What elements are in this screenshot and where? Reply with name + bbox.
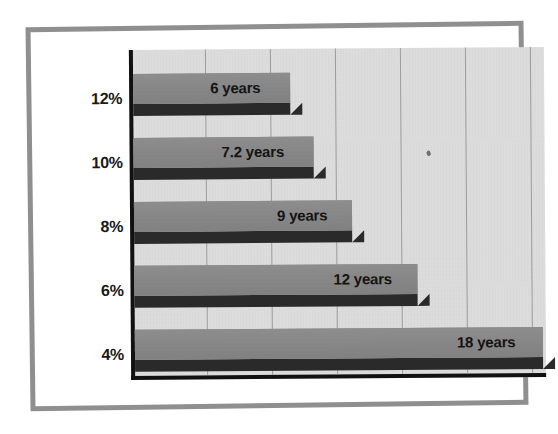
y-tick-label: 12% — [91, 90, 122, 108]
y-tick-label: 6% — [101, 282, 124, 300]
bar-row: 6 years — [133, 71, 548, 116]
bar-chart: 12% 10% 8% 6% 4% — [66, 47, 528, 395]
bar-value-label: 6 years — [210, 73, 261, 103]
y-tick-label: 8% — [101, 218, 124, 236]
bar-shadow — [134, 230, 352, 244]
bar-shadow-cap — [290, 103, 302, 115]
bar-row: 7.2 years — [133, 135, 548, 180]
bar-shadow-cap — [352, 230, 364, 242]
bar-row: 12 years — [134, 263, 549, 308]
chart-outer-frame: 12% 10% 8% 6% 4% — [26, 21, 529, 411]
bar-row: 18 years — [135, 327, 550, 372]
bar-shadow — [133, 103, 290, 116]
bar-value-label: 12 years — [333, 264, 392, 294]
bar-shadow — [135, 294, 418, 308]
y-tick-label: 10% — [91, 154, 122, 172]
bar-value-label: 9 years — [277, 201, 328, 231]
bar-row: 9 years — [134, 199, 549, 244]
y-axis: 12% 10% 8% 6% 4% — [66, 50, 130, 380]
plot-area: 6 years 7.2 years 9 years — [129, 47, 546, 380]
bar-shadow-cap — [314, 167, 326, 179]
bar-shadow-cap — [543, 357, 555, 369]
bar-value-label: 18 years — [457, 327, 516, 357]
bar-shadow-cap — [418, 294, 430, 306]
y-tick-label: 4% — [101, 346, 124, 364]
bar-shadow — [134, 167, 314, 180]
bar-value-label: 7.2 years — [221, 137, 284, 167]
